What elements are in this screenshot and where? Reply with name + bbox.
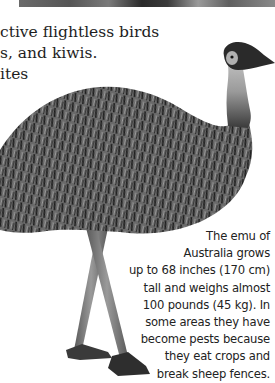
caption-line: break sheep fences.	[95, 366, 270, 383]
caption-line: become pests because	[95, 331, 270, 348]
caption-line: some areas they have	[95, 314, 270, 331]
caption-line: they eat crops and	[95, 348, 270, 365]
caption-line: Australia grows	[95, 245, 270, 262]
caption-line: up to 68 inches (170 cm)	[95, 262, 270, 279]
caption-line: 100 pounds (45 kg). In	[95, 297, 270, 314]
emu-body	[0, 87, 252, 234]
emu-caption: The emu of Australia grows up to 68 inch…	[95, 228, 270, 383]
caption-line: The emu of	[95, 228, 270, 245]
caption-line: tall and weighs almost	[95, 280, 270, 297]
